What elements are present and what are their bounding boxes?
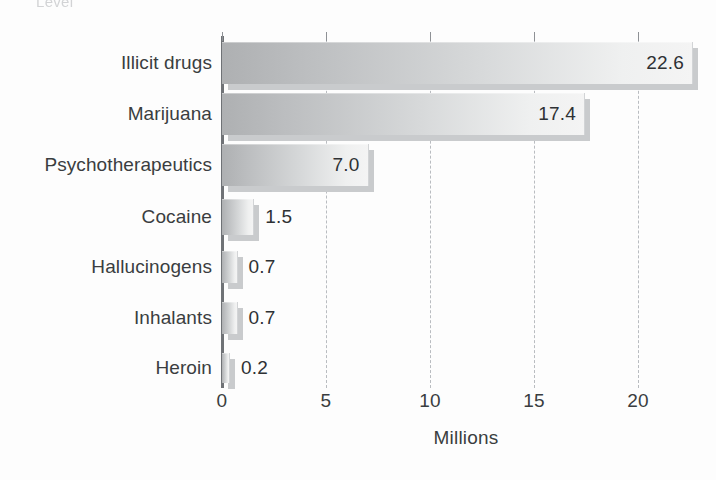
bar-psychotherapeutics[interactable]: 7.0 bbox=[222, 144, 368, 186]
bar-chart-figure: Level 22.617.47.01.50.70.70.2 Illicit dr… bbox=[0, 0, 716, 480]
category-label-slot: Psychotherapeutics bbox=[0, 144, 212, 186]
x-axis-title-label: Millions bbox=[434, 427, 499, 449]
x-tick-label: 15 bbox=[523, 390, 545, 412]
bar-value-label: 0.7 bbox=[249, 256, 276, 278]
bar-row: 0.7 bbox=[222, 302, 638, 334]
bar-fill bbox=[222, 93, 585, 135]
axis-tick-mark bbox=[638, 32, 639, 41]
bar-row: 0.2 bbox=[222, 353, 638, 383]
bar-highlight-edge bbox=[222, 251, 237, 252]
bar-highlight-edge bbox=[222, 144, 368, 145]
bar-highlight-edge bbox=[222, 353, 229, 354]
bar-cocaine[interactable] bbox=[222, 199, 253, 235]
bar-highlight-edge bbox=[222, 42, 692, 43]
bar-row: 7.0 bbox=[222, 144, 638, 186]
bar-highlight-edge bbox=[222, 199, 253, 200]
category-label-slot: Cocaine bbox=[0, 199, 212, 235]
axis-tick-mark bbox=[534, 32, 535, 41]
x-axis-title: Millions bbox=[0, 427, 716, 449]
bar-row: 17.4 bbox=[222, 93, 638, 135]
bar-inhalants[interactable] bbox=[222, 302, 237, 334]
category-label-slot: Heroin bbox=[0, 353, 212, 383]
bar-fill bbox=[222, 353, 230, 383]
category-label-slot: Marijuana bbox=[0, 93, 212, 135]
x-tick-label: 0 bbox=[217, 390, 228, 412]
category-label-slot: Illicit drugs bbox=[0, 42, 212, 84]
axis-tick-mark bbox=[326, 32, 327, 41]
category-label: Illicit drugs bbox=[121, 52, 212, 74]
bar-highlight-edge bbox=[222, 302, 237, 303]
bar-highlight-edge bbox=[222, 93, 584, 94]
x-tick-label: 10 bbox=[419, 390, 441, 412]
plot-area: 22.617.47.01.50.70.70.2 bbox=[222, 36, 638, 380]
bar-marijuana[interactable]: 17.4 bbox=[222, 93, 584, 135]
bar-row: 1.5 bbox=[222, 199, 638, 235]
bar-value-label: 0.7 bbox=[249, 307, 276, 329]
category-label-slot: Inhalants bbox=[0, 302, 212, 334]
bar-value-label: 0.2 bbox=[241, 357, 268, 379]
category-label: Psychotherapeutics bbox=[44, 154, 212, 176]
category-label: Cocaine bbox=[142, 206, 212, 228]
category-label: Inhalants bbox=[134, 307, 212, 329]
bar-heroin[interactable] bbox=[222, 353, 229, 383]
bar-value-label: 7.0 bbox=[333, 154, 360, 176]
page-cutoff-text: Level bbox=[36, 0, 73, 10]
category-label: Marijuana bbox=[128, 103, 212, 125]
bar-illicit-drugs[interactable]: 22.6 bbox=[222, 42, 692, 84]
category-label-slot: Hallucinogens bbox=[0, 251, 212, 283]
bar-fill bbox=[222, 42, 693, 84]
category-label: Heroin bbox=[155, 357, 212, 379]
axis-tick-mark bbox=[222, 32, 223, 41]
category-label: Hallucinogens bbox=[91, 256, 212, 278]
bar-hallucinogens[interactable] bbox=[222, 251, 237, 283]
x-tick-label: 20 bbox=[627, 390, 649, 412]
bar-value-label: 17.4 bbox=[538, 103, 576, 125]
bar-fill bbox=[222, 199, 254, 235]
x-tick-label: 5 bbox=[321, 390, 332, 412]
bar-row: 0.7 bbox=[222, 251, 638, 283]
axis-tick-mark bbox=[430, 32, 431, 41]
bar-fill bbox=[222, 302, 238, 334]
bar-fill bbox=[222, 251, 238, 283]
bar-value-label: 22.6 bbox=[646, 52, 684, 74]
bar-value-label: 1.5 bbox=[265, 206, 292, 228]
bar-row: 22.6 bbox=[222, 42, 638, 84]
